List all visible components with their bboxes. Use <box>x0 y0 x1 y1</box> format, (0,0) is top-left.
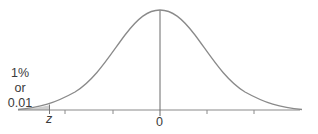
tail-area-label: 1% or 0.01 <box>2 66 38 111</box>
tail-decimal: 0.01 <box>2 96 38 111</box>
mean-zero-label: 0 <box>156 116 163 129</box>
critical-z-label: z <box>46 113 52 126</box>
tail-percent: 1% <box>2 66 38 81</box>
tail-or: or <box>2 81 38 96</box>
